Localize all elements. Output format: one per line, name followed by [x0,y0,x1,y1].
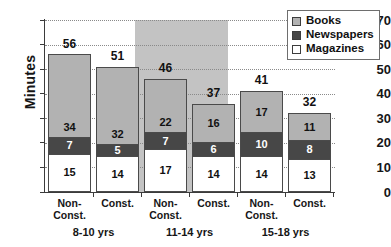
y-tick-label-0: 0 [353,186,391,199]
x-tick-mark-4 [237,192,238,197]
chart-legend: Books Newspapers Magazines [287,10,380,60]
x-category-label-5-line1: Non- [240,198,283,210]
bar-6-segment-magazines[interactable]: 13 [289,160,330,191]
bar-total-label-4: 37 [192,87,235,99]
bar-total-label-3: 46 [144,62,187,74]
stacked-bar-chart: Minutes 70 60 50 40 30 20 10 0 [0,0,391,247]
bar-total-label-6: 32 [288,96,331,108]
bar-3[interactable]: 17 7 22 [144,79,187,192]
bar-2-segment-newspapers[interactable]: 5 [97,145,138,157]
legend-label-magazines: Magazines [306,43,364,55]
x-category-label-3-line1: Non- [144,198,187,210]
bar-total-label-1: 56 [48,38,91,50]
bar-1-segment-books[interactable]: 34 [49,55,90,137]
bar-2-books-value: 32 [111,129,123,140]
legend-item-books[interactable]: Books [292,14,374,28]
bar-3-newspapers-value: 7 [162,136,168,147]
x-tick-mark-5 [285,192,286,197]
x-category-label-3-line2: Const. [144,210,187,222]
bar-1-newspapers-value: 7 [66,140,72,151]
x-tick-mark-2 [141,192,142,197]
bar-3-books-value: 22 [159,117,171,128]
bar-group-2[interactable]: 51 14 5 32 [96,20,139,192]
bar-group-5[interactable]: 41 14 10 17 [240,20,283,192]
bar-2-segment-books[interactable]: 32 [97,68,138,145]
bar-group-1[interactable]: 56 15 7 34 [48,20,91,192]
y-axis-line [44,19,45,193]
bar-4[interactable]: 14 6 16 [192,104,235,193]
bar-4-newspapers-value: 6 [210,144,216,155]
bar-3-segment-books[interactable]: 22 [145,80,186,133]
x-category-label-1-line1: Non- [48,198,91,210]
bar-total-label-2: 51 [96,50,139,62]
x-category-label-2: Const. [96,198,139,210]
bar-5-segment-newspapers[interactable]: 10 [241,133,282,157]
bar-6-segment-newspapers[interactable]: 8 [289,141,330,160]
bar-5[interactable]: 14 10 17 [240,91,283,192]
bar-1-segment-newspapers[interactable]: 7 [49,138,90,155]
y-tick-label-20: 20 [353,136,391,149]
bar-group-4[interactable]: 37 14 6 16 [192,20,235,192]
x-group-label-3: 15-18 yrs [240,226,331,238]
bar-3-magazines-value: 17 [159,165,171,176]
y-tick-label-10: 10 [353,161,391,174]
y-tick-label-30: 30 [353,112,391,125]
y-tick-label-40: 40 [353,87,391,100]
legend-label-books: Books [306,15,341,27]
bar-6-segment-books[interactable]: 11 [289,114,330,140]
bar-5-segment-books[interactable]: 17 [241,92,282,133]
bar-6-books-value: 11 [304,122,316,133]
bar-1-segment-magazines[interactable]: 15 [49,155,90,191]
bar-5-segment-magazines[interactable]: 14 [241,157,282,191]
bar-2-segment-magazines[interactable]: 14 [97,157,138,191]
legend-item-magazines[interactable]: Magazines [292,42,374,56]
legend-swatch-newspapers-icon [292,31,301,40]
legend-swatch-magazines-icon [292,45,301,54]
bar-4-segment-newspapers[interactable]: 6 [193,143,234,157]
x-tick-mark-3 [189,192,190,197]
bar-5-magazines-value: 14 [255,169,267,180]
x-category-label-1-line2: Const. [48,210,91,222]
x-category-label-4-line1: Const. [192,198,235,210]
bar-6-newspapers-value: 8 [306,144,312,155]
bar-1-books-value: 34 [63,122,75,133]
x-category-label-6-line1: Const. [288,198,331,210]
x-category-label-6: Const. [288,198,331,210]
bar-3-segment-newspapers[interactable]: 7 [145,133,186,150]
x-category-label-5: Non- Const. [240,198,283,221]
bar-4-books-value: 16 [207,118,219,129]
legend-label-newspapers: Newspapers [306,29,374,41]
bar-3-segment-magazines[interactable]: 17 [145,150,186,191]
bar-4-segment-books[interactable]: 16 [193,105,234,143]
x-category-label-5-line2: Const. [240,210,283,222]
bar-6-magazines-value: 13 [303,170,315,181]
bar-4-segment-magazines[interactable]: 14 [193,157,234,191]
bar-group-3[interactable]: 46 17 7 22 [144,20,187,192]
bar-2-newspapers-value: 5 [114,145,120,156]
bar-total-label-5: 41 [240,74,283,86]
bar-6[interactable]: 13 8 11 [288,113,331,192]
x-category-label-2-line1: Const. [96,198,139,210]
legend-item-newspapers[interactable]: Newspapers [292,28,374,42]
x-category-label-3: Non- Const. [144,198,187,221]
bar-1-magazines-value: 15 [63,167,75,178]
x-tick-mark-6 [333,192,334,197]
bar-1[interactable]: 15 7 34 [48,54,91,192]
y-axis-title: Minutes [22,22,38,142]
bar-5-books-value: 17 [255,107,267,118]
y-tick-label-50: 50 [353,63,391,76]
bar-2[interactable]: 14 5 32 [96,67,139,192]
x-group-label-2: 11-14 yrs [144,226,235,238]
x-category-label-4: Const. [192,198,235,210]
x-group-label-1: 8-10 yrs [48,226,139,238]
x-category-label-1: Non- Const. [48,198,91,221]
bar-4-magazines-value: 14 [207,169,219,180]
bar-5-newspapers-value: 10 [255,139,267,150]
legend-swatch-books-icon [292,17,301,26]
x-tick-mark-1 [93,192,94,197]
bar-2-magazines-value: 14 [111,169,123,180]
